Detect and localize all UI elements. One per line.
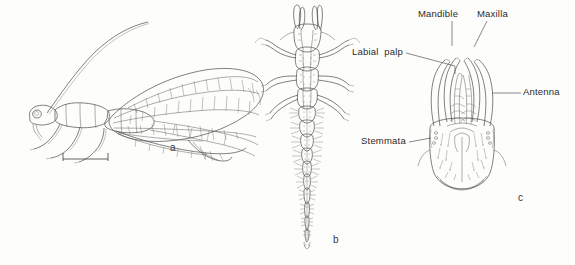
- label-labial-palp: Labial palp: [352, 46, 403, 57]
- scale-bar-panel-a: [63, 153, 108, 161]
- stemmata-left: [430, 129, 437, 148]
- panel-a-adult-drawing: [0, 0, 575, 265]
- label-maxilla: Maxilla: [477, 8, 508, 19]
- panel-letter-b: b: [333, 234, 339, 245]
- panel-letter-a: a: [170, 142, 176, 153]
- label-stemmata: Stemmata: [361, 135, 406, 146]
- label-antenna: Antenna: [523, 86, 560, 97]
- scientific-figure-plate: Mandible Maxilla Labial palp Antenna Ste…: [0, 0, 575, 265]
- annotation-leader-lines: [406, 21, 521, 142]
- panel-letter-c: c: [518, 192, 523, 203]
- stemmata-right: [486, 129, 493, 148]
- label-mandible: Mandible: [418, 8, 458, 19]
